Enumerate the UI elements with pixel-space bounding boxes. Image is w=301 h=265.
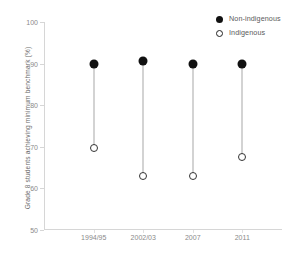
y-tick-mark [40, 64, 44, 65]
y-tick-mark [40, 188, 44, 189]
y-tick-label: 100 [26, 19, 38, 26]
x-tick-label: 2011 [235, 234, 250, 241]
y-tick-mark [40, 22, 44, 23]
y-tick-mark [40, 147, 44, 148]
connector-line [192, 64, 193, 176]
plot-area: 5060708090100 1994/952002/0320072011 [44, 22, 282, 230]
connector-line [242, 64, 243, 156]
x-axis-line [44, 229, 282, 230]
x-tick-mark [242, 230, 243, 233]
y-tick-label: 60 [30, 185, 38, 192]
data-point-non-indigenous[interactable] [89, 60, 98, 69]
x-tick-mark [193, 230, 194, 233]
y-tick-label: 80 [30, 102, 38, 109]
y-axis-line [44, 22, 45, 230]
data-point-indigenous[interactable] [90, 144, 98, 152]
x-tick-label: 1994/95 [81, 234, 106, 241]
y-tick-mark [40, 105, 44, 106]
x-tick-label: 2002/03 [131, 234, 156, 241]
y-tick-mark [40, 230, 44, 231]
data-point-indigenous[interactable] [238, 153, 246, 161]
connector-line [93, 64, 94, 147]
data-point-non-indigenous[interactable] [238, 60, 247, 69]
data-point-non-indigenous[interactable] [139, 56, 148, 65]
data-point-indigenous[interactable] [139, 172, 147, 180]
y-tick-label: 50 [30, 227, 38, 234]
data-point-non-indigenous[interactable] [188, 60, 197, 69]
x-tick-mark [143, 230, 144, 233]
x-tick-label: 2007 [185, 234, 201, 241]
connector-line [143, 61, 144, 176]
y-tick-label: 70 [30, 143, 38, 150]
data-point-indigenous[interactable] [189, 172, 197, 180]
y-tick-label: 90 [30, 60, 38, 67]
chart-container: Grade 8 students achieving minimum bench… [0, 0, 301, 265]
x-tick-mark [94, 230, 95, 233]
